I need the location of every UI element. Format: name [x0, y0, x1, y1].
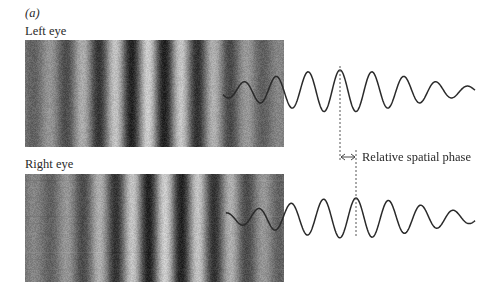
left-eye-luminance-waveform [223, 70, 475, 112]
waveform-overlay [0, 0, 495, 294]
double-arrow-icon [341, 154, 355, 160]
right-eye-luminance-waveform [226, 198, 475, 238]
relative-spatial-phase-label: Relative spatial phase [362, 150, 471, 164]
